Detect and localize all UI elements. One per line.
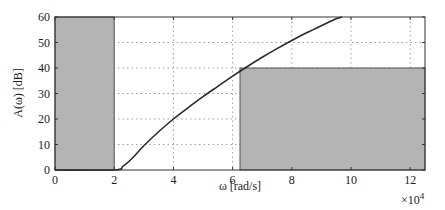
- y-tick-label: 40: [38, 61, 50, 75]
- y-axis-label: A(ω) [dB]: [11, 68, 25, 118]
- shaded-regions: [55, 17, 425, 170]
- multiplier-base: ×10: [401, 193, 420, 207]
- x-tick-label: 0: [52, 173, 58, 187]
- multiplier-exponent: 4: [420, 191, 425, 201]
- y-tick-label: 30: [38, 87, 50, 101]
- y-tick-label: 20: [38, 112, 50, 126]
- stopband-constraint-region: [240, 68, 425, 170]
- x-tick-label: 8: [289, 173, 295, 187]
- x-tick-label: 10: [345, 173, 357, 187]
- x-tick-label: 12: [404, 173, 416, 187]
- y-tick-label: 0: [44, 163, 50, 177]
- passband-constraint-region: [55, 17, 114, 170]
- y-tick-label: 60: [38, 10, 50, 24]
- x-axis-multiplier: ×104: [401, 191, 425, 207]
- x-axis-label: ω [rad/s]: [219, 179, 261, 193]
- y-tick-label: 50: [38, 36, 50, 50]
- y-tick-label: 10: [38, 138, 50, 152]
- x-tick-label: 4: [170, 173, 176, 187]
- attenuation-chart: 024681012 0102030405060 ω [rad/s] A(ω) […: [0, 0, 445, 210]
- x-tick-label: 2: [111, 173, 117, 187]
